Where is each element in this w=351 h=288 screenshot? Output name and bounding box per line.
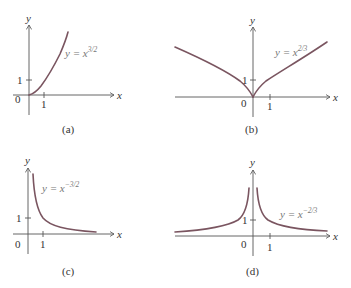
y-tick-label: 1 (16, 212, 22, 224)
x-tick-label: 1 (41, 98, 47, 110)
power-function-graphs: y x 0 1 1 y = x3/2 (a) y x 0 1 1 y = x2/… (0, 0, 351, 288)
function-label: y = x−3/2 (41, 180, 80, 194)
x-tick-label: 1 (267, 241, 273, 253)
y-axis-label: y (24, 154, 30, 166)
y-tick-label: 1 (242, 74, 248, 86)
panel-c: y x 0 1 1 y = x−3/2 (c) (13, 154, 122, 278)
origin-label: 0 (241, 238, 247, 250)
x-tick-label: 1 (40, 238, 46, 250)
caption: (d) (246, 265, 259, 278)
function-label: y = x−2/3 (279, 206, 318, 220)
function-label: y = x2/3 (274, 44, 308, 58)
origin-label: 0 (15, 238, 21, 250)
panel-d: y x 0 1 1 y = x−2/3 (d) (175, 156, 338, 278)
curve-x-3-2 (29, 32, 68, 95)
y-axis-label: y (25, 12, 31, 24)
caption: (c) (62, 265, 75, 278)
x-tick-label: 1 (267, 100, 273, 112)
y-axis-label: y (249, 14, 255, 26)
curve-x-2-3-left (175, 47, 253, 97)
x-axis-label: x (332, 230, 338, 242)
x-axis-label: x (116, 228, 122, 240)
caption: (b) (245, 123, 258, 136)
caption: (a) (62, 123, 75, 136)
y-tick-label: 1 (242, 214, 248, 226)
x-axis-label: x (332, 91, 338, 103)
panel-a: y x 0 1 1 y = x3/2 (a) (13, 12, 122, 136)
y-axis-label: y (249, 156, 255, 168)
origin-label: 0 (15, 93, 21, 105)
curve-x-neg-2-3-left (175, 188, 249, 232)
origin-label: 0 (241, 97, 247, 109)
panel-b: y x 0 1 1 y = x2/3 (b) (175, 14, 338, 136)
x-axis-label: x (116, 89, 122, 101)
function-label: y = x3/2 (64, 45, 98, 59)
y-tick-label: 1 (17, 74, 23, 86)
